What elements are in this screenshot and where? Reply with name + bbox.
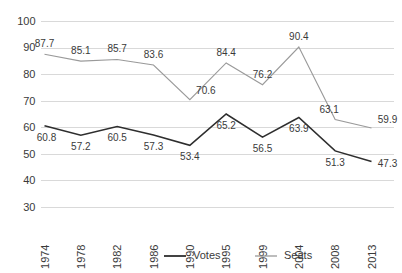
data-label: 47.3 [378,158,398,169]
data-label: 59.9 [378,114,398,125]
data-label: 57.3 [144,141,164,152]
y-axis-tick-label: 50 [23,148,35,160]
data-label: 84.4 [216,47,236,58]
y-axis-tick-label: 60 [23,121,35,133]
chart-canvas: 30405060708090100 1974197819821986199019… [0,0,402,273]
data-label: 56.5 [253,143,273,154]
x-axis-tick-label: 1978 [75,245,87,269]
data-label: 57.2 [71,141,91,152]
x-axis-tick-label: 1986 [148,245,160,269]
data-label: 70.6 [196,85,216,96]
y-axis-tick-label: 30 [23,201,35,213]
data-label: 60.5 [107,132,127,143]
legend-label-votes: Votes [193,249,221,261]
y-axis-tick-label: 100 [17,15,35,27]
x-axis-tick-label: 1995 [220,245,232,269]
y-axis-tick-label: 80 [23,68,35,80]
data-label: 85.7 [107,43,127,54]
y-axis-tick-label: 90 [23,41,35,53]
data-label: 90.4 [289,31,309,42]
y-axis-labels-group: 30405060708090100 [17,15,35,213]
data-labels-group: 60.857.260.557.353.465.256.563.951.347.3… [35,31,398,169]
line-chart: 30405060708090100 1974197819821986199019… [0,0,402,273]
x-axis-tick-label: 2008 [329,245,341,269]
data-label: 51.3 [325,157,345,168]
data-label: 85.1 [71,45,91,56]
x-axis-tick-label: 1982 [111,245,123,269]
data-label: 87.7 [35,38,55,49]
x-axis-tick-label: 1974 [39,245,51,269]
y-axis-tick-label: 40 [23,174,35,186]
data-label: 63.1 [319,104,339,115]
y-axis-tick-label: 70 [23,95,35,107]
data-label: 65.2 [216,120,236,131]
legend-label-seats: Seats [284,249,313,261]
data-label: 53.4 [180,151,200,162]
data-label: 63.9 [289,123,309,134]
data-label: 60.8 [37,132,57,143]
x-axis-tick-label: 2013 [366,245,378,269]
data-label: 76.2 [253,69,273,80]
data-label: 83.6 [144,49,164,60]
x-axis-tick-label: 1999 [257,245,269,269]
